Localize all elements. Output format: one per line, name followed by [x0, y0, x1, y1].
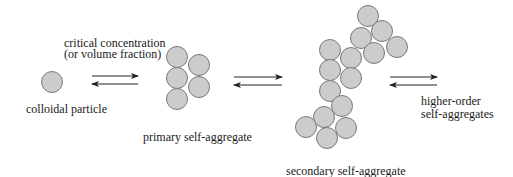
primary-self-aggregate-label: primary self-aggregate	[143, 131, 252, 143]
equilibrium-arrows-2	[234, 77, 282, 85]
higher-order-self-aggregates-label: self-aggregates	[421, 108, 494, 120]
self-aggregation-diagram: critical concentration (or volume fracti…	[0, 0, 513, 177]
volume-fraction-label: (or volume fraction)	[64, 48, 161, 60]
colloidal-particle-label: colloidal particle	[26, 103, 107, 115]
diagram-canvas	[0, 0, 513, 177]
primary-self-aggregate	[167, 47, 210, 110]
equilibrium-arrows-1	[92, 76, 138, 84]
colloidal-particle	[42, 72, 63, 93]
higher-order-label: higher-order	[421, 95, 481, 107]
equilibrium-arrows-3	[390, 77, 437, 85]
secondary-self-aggregate-label: secondary self-aggregate	[286, 165, 406, 177]
